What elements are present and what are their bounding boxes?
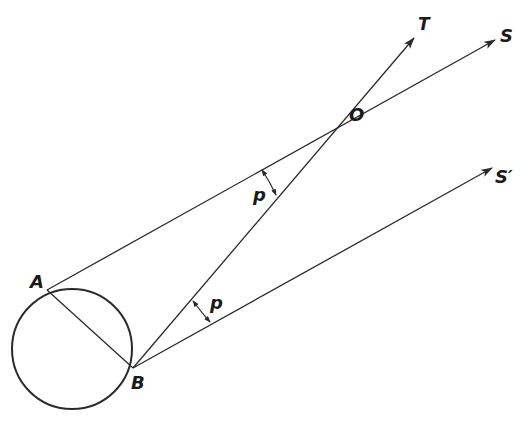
label-B: B: [131, 372, 145, 393]
label-O: O: [349, 104, 364, 125]
line-AS: [47, 40, 495, 290]
angle-p-lower-arc: [193, 301, 210, 322]
parallax-diagram: T S S′ O A B p p: [0, 0, 527, 428]
line-BT: [133, 38, 414, 368]
body-circle: [12, 289, 132, 409]
label-S-prime: S′: [495, 166, 513, 187]
line-BS-prime: [133, 168, 492, 368]
label-p-lower: p: [209, 292, 223, 313]
baseline-AB: [47, 290, 133, 368]
label-T: T: [418, 14, 431, 34]
label-S: S: [500, 25, 513, 46]
label-p-upper: p: [252, 184, 266, 205]
label-A: A: [28, 271, 44, 292]
